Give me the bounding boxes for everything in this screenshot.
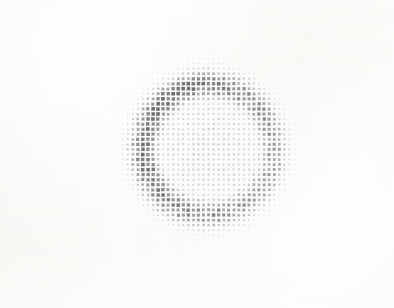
matrix-cell: [147, 220, 148, 221]
matrix-cell: [197, 189, 199, 191]
matrix-cell: [161, 88, 164, 91]
matrix-cell: [309, 154, 310, 155]
matrix-cell: [289, 189, 290, 190]
matrix-cell: [141, 168, 144, 171]
matrix-cell: [137, 189, 139, 191]
matrix-cell: [177, 159, 179, 161]
matrix-cell: [238, 164, 240, 166]
matrix-cell: [254, 235, 255, 236]
matrix-cell: [304, 184, 305, 185]
matrix-cell: [182, 138, 184, 140]
matrix-cell: [117, 204, 118, 205]
matrix-cell: [242, 103, 245, 106]
matrix-cell: [207, 219, 210, 222]
matrix-cell: [309, 169, 310, 170]
matrix-cell: [268, 178, 271, 181]
matrix-cell: [188, 103, 190, 105]
matrix-cell: [182, 224, 184, 226]
matrix-cell: [213, 235, 214, 236]
matrix-cell: [218, 250, 219, 251]
matrix-cell: [217, 87, 220, 90]
matrix-cell: [177, 173, 179, 175]
matrix-cell: [198, 174, 200, 176]
matrix-cell: [229, 53, 230, 54]
matrix-cell: [243, 53, 244, 54]
matrix-cell: [107, 123, 108, 124]
matrix-cell: [188, 58, 189, 59]
matrix-cell: [218, 184, 220, 186]
matrix-cell: [197, 77, 200, 80]
matrix-cell: [173, 48, 174, 49]
matrix-cell: [188, 245, 189, 246]
matrix-cell: [168, 68, 169, 69]
matrix-cell: [273, 184, 276, 187]
matrix-cell: [127, 220, 128, 221]
matrix-cell: [253, 63, 254, 64]
matrix-cell: [243, 224, 245, 226]
matrix-cell: [112, 139, 113, 140]
matrix-cell: [137, 108, 139, 110]
matrix-cell: [152, 163, 155, 166]
matrix-cell: [202, 72, 205, 75]
matrix-cell: [102, 134, 103, 135]
matrix-cell: [193, 53, 194, 54]
matrix-cell: [289, 108, 290, 109]
matrix-cell: [192, 77, 195, 80]
matrix-cell: [167, 219, 169, 221]
matrix-cell: [269, 83, 270, 84]
matrix-cell: [274, 214, 275, 215]
matrix-cell: [107, 169, 108, 170]
matrix-cell: [218, 199, 220, 201]
matrix-cell: [141, 143, 145, 147]
matrix-cell: [167, 83, 169, 85]
matrix-cell: [289, 78, 290, 79]
matrix-cell: [268, 204, 270, 206]
matrix-cell: [218, 72, 220, 74]
matrix-cell: [213, 53, 214, 54]
matrix-cell: [203, 98, 205, 100]
matrix-cell: [238, 128, 240, 130]
matrix-cell: [304, 103, 305, 104]
matrix-cell: [203, 123, 205, 125]
matrix-cell: [132, 108, 134, 110]
matrix-cell: [232, 214, 235, 217]
matrix-cell: [299, 154, 300, 155]
matrix-cell: [167, 97, 170, 100]
matrix-cell: [258, 118, 261, 121]
matrix-cell: [238, 159, 240, 161]
matrix-cell: [238, 179, 240, 181]
matrix-cell: [253, 123, 255, 125]
matrix-cell: [158, 224, 159, 225]
matrix-cell: [288, 164, 290, 166]
matrix-cell: [233, 123, 235, 125]
matrix-cell: [127, 194, 128, 195]
matrix-cell: [173, 58, 174, 59]
matrix-cell: [208, 118, 210, 120]
matrix-cell: [192, 174, 194, 176]
matrix-cell: [233, 179, 235, 181]
matrix-cell: [267, 173, 270, 176]
matrix-cell: [273, 118, 276, 121]
matrix-cell: [242, 198, 245, 201]
matrix-cell: [127, 199, 128, 200]
matrix-cell: [283, 158, 285, 160]
matrix-cell: [238, 139, 240, 141]
matrix-cell: [203, 245, 204, 246]
matrix-cell: [167, 118, 169, 120]
matrix-cell: [212, 204, 215, 207]
matrix-cell: [137, 98, 138, 99]
matrix-cell: [162, 148, 164, 150]
matrix-cell: [197, 87, 200, 90]
matrix-cell: [263, 138, 265, 140]
matrix-cell: [207, 133, 209, 135]
matrix-cell: [218, 103, 220, 105]
matrix-cell: [263, 98, 265, 100]
matrix-cell: [222, 87, 225, 90]
matrix-cell: [273, 173, 276, 176]
matrix-cell: [319, 139, 320, 140]
matrix-cell: [212, 98, 214, 100]
matrix-cell: [202, 199, 204, 201]
matrix-cell: [238, 143, 240, 145]
matrix-cell: [238, 148, 240, 150]
matrix-cell: [151, 132, 154, 135]
